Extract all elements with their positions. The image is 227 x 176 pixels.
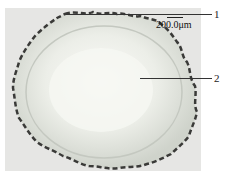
scale-bar-label: 200.0μm: [156, 20, 192, 30]
micrograph-image: [5, 8, 201, 171]
specimen-cross-section: [5, 8, 201, 171]
leader-line-2: [140, 78, 212, 79]
leader-line-1: [66, 14, 212, 15]
scale-bar: [167, 17, 183, 18]
annotation-label-2: 2: [214, 73, 220, 84]
annotation-label-1: 1: [214, 9, 220, 20]
